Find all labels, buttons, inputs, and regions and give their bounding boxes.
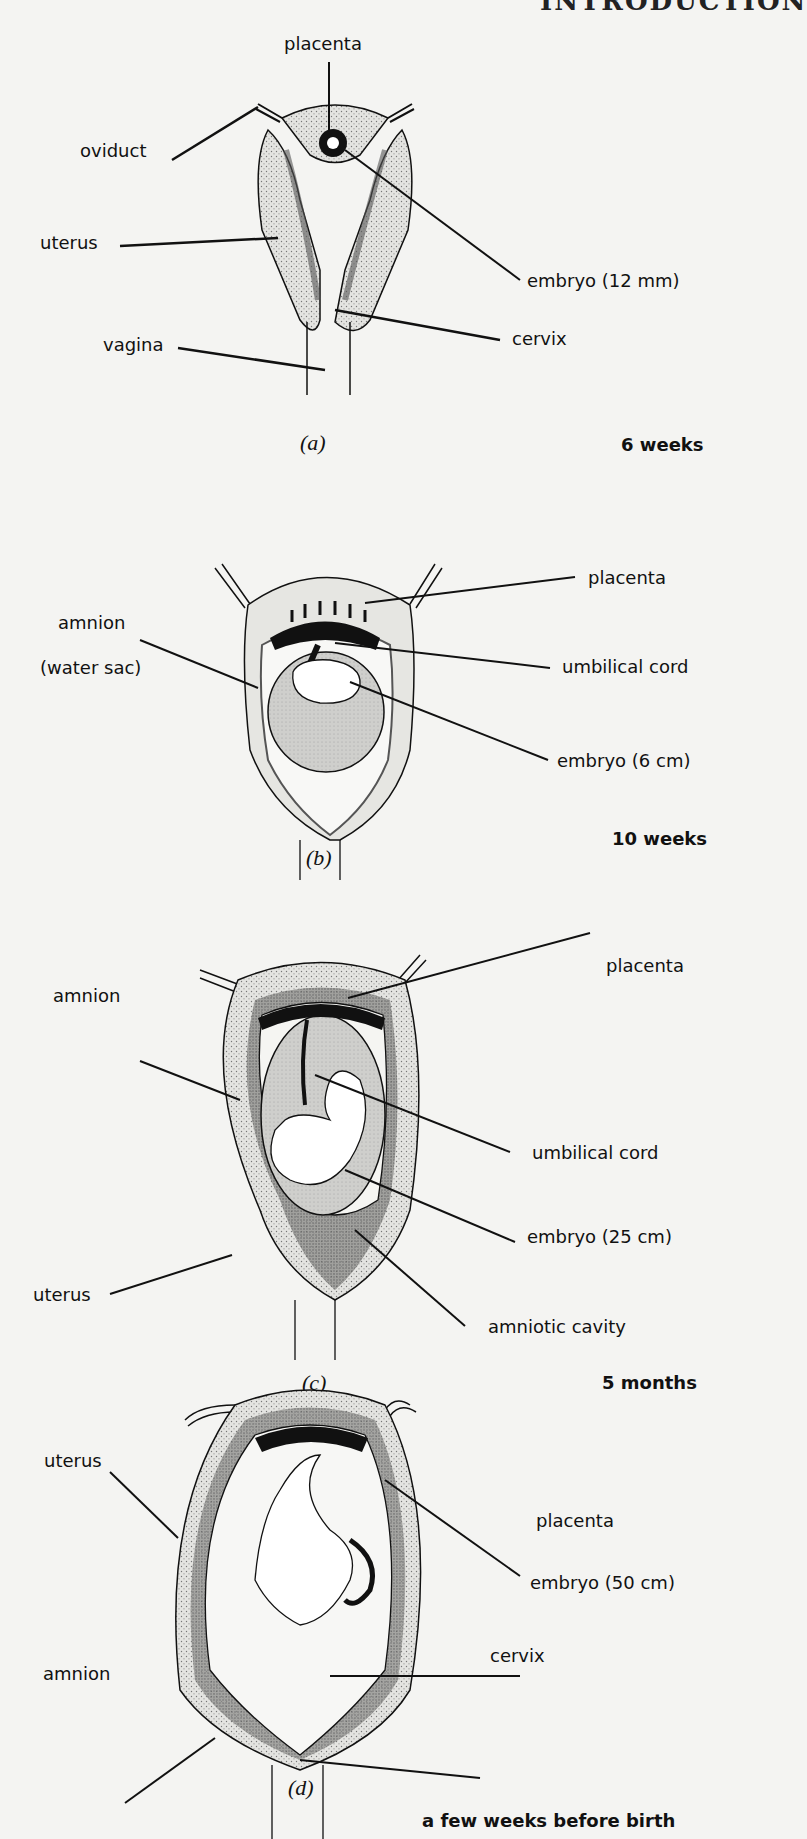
caption-d: (d) — [288, 1775, 314, 1801]
label-amnion: amnion — [43, 1663, 110, 1684]
label-embryo: embryo (6 cm) — [557, 750, 690, 771]
label-embryo: embryo (25 cm) — [527, 1226, 672, 1247]
label-embryo: embryo (50 cm) — [530, 1572, 675, 1593]
uterus-before-birth-illustration — [0, 1360, 741, 1839]
label-embryo: embryo (12 mm) — [527, 270, 680, 291]
label-amnion: amnion — [58, 612, 125, 633]
label-uterus: uterus — [44, 1450, 102, 1471]
label-oviduct: oviduct — [80, 140, 146, 161]
label-placenta: placenta — [588, 567, 666, 588]
label-cervix: cervix — [512, 328, 567, 349]
label-amniotic-cavity: amniotic cavity — [488, 1316, 626, 1337]
stage-label-d: a few weeks before birth — [422, 1810, 675, 1831]
stage-label-a: 6 weeks — [621, 434, 704, 455]
uterus-5-months-illustration — [0, 880, 741, 1360]
label-uterus: uterus — [40, 232, 98, 253]
caption-a: (a) — [300, 430, 326, 456]
label-cervix: cervix — [490, 1645, 545, 1666]
label-vagina: vagina — [103, 334, 164, 355]
label-amnion: amnion — [53, 985, 120, 1006]
label-placenta: placenta — [284, 33, 362, 54]
label-uterus: uterus — [33, 1284, 91, 1305]
label-placenta: placenta — [536, 1510, 614, 1531]
label-umbilical-cord: umbilical cord — [532, 1142, 658, 1163]
label-umbilical-cord: umbilical cord — [562, 656, 688, 677]
caption-b: (b) — [306, 845, 332, 871]
label-amnion-note: (water sac) — [40, 657, 141, 678]
label-placenta: placenta — [606, 955, 684, 976]
uterus-6-weeks-illustration — [0, 0, 741, 460]
stage-label-b: 10 weeks — [612, 828, 707, 849]
